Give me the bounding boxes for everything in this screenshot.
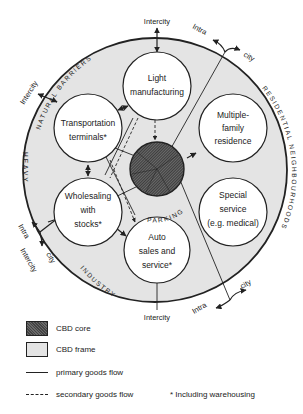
zone-heavy: HEAVY bbox=[22, 152, 29, 184]
transport-line1: Transportation bbox=[61, 118, 116, 128]
wholesale-line3: stocks* bbox=[74, 219, 102, 229]
light-line1: Light bbox=[148, 73, 167, 83]
label-topright-intra: Intra bbox=[191, 22, 209, 37]
label-bottom-intercity: Intercity bbox=[144, 313, 171, 322]
residence-line3: residence bbox=[215, 136, 252, 146]
label-bottomright-intra: Intra bbox=[191, 300, 209, 316]
auto-line1: Auto bbox=[148, 232, 166, 242]
residence-line2: family bbox=[222, 123, 245, 133]
label-left-intercity: Intercity bbox=[18, 247, 39, 274]
special-line3: (e.g. medical) bbox=[207, 218, 259, 228]
label-top-intercity: Intercity bbox=[144, 17, 171, 26]
label-left-intra: Intra bbox=[16, 223, 32, 241]
label-topright-city: city bbox=[242, 50, 256, 64]
auto-line3: service* bbox=[142, 260, 173, 270]
label-topleft-intercity: Intercity bbox=[18, 79, 40, 106]
residence-line1: Multiple- bbox=[217, 110, 249, 120]
special-line2: service bbox=[220, 204, 247, 214]
label-bottomright-city: city bbox=[239, 277, 253, 291]
wholesale-line2: with bbox=[79, 205, 95, 215]
node-light-manufacturing bbox=[123, 52, 191, 120]
auto-line2: sales and bbox=[139, 246, 176, 256]
node-transportation-terminals bbox=[54, 94, 122, 162]
cbd-diagram: Light manufacturing Transportation termi… bbox=[0, 0, 303, 414]
transport-line2: terminals* bbox=[69, 132, 107, 142]
special-line1: Special bbox=[219, 190, 247, 200]
cbd-frame-diagram: Light manufacturing Transportation termi… bbox=[0, 0, 303, 414]
wholesale-line1: Wholesaling bbox=[65, 191, 112, 201]
light-line2: manufacturing bbox=[130, 87, 184, 97]
